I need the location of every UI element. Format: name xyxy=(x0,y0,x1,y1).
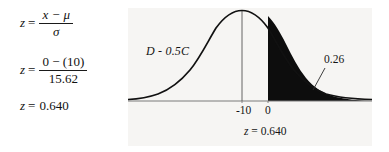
formula-line-2-fraction: 0 − (10) 15.62 xyxy=(39,55,87,86)
z-score-formula-block: z = x − μ σ z = 0 − (10) 15.62 z = 0.640 xyxy=(0,0,128,152)
formula-line-2-numerator: 0 − (10) xyxy=(39,55,87,70)
x-tick-label-neg10: -10 xyxy=(236,104,251,116)
curve-series-label: D - 0.5C xyxy=(146,44,189,59)
tail-label-leader-line xyxy=(313,68,325,90)
formula-line-1-denominator: σ xyxy=(50,24,62,39)
formula-line-3: z = 0.640 xyxy=(20,98,69,114)
formula-line-1-equals: = xyxy=(28,15,35,31)
formula-line-2-denominator: 15.62 xyxy=(46,71,81,86)
x-tick-label-zero: 0 xyxy=(265,104,271,116)
formula-line-3-variable: z xyxy=(20,98,25,114)
formula-line-1-numerator: x − μ xyxy=(39,8,73,23)
normal-distribution-chart: D - 0.5C 0.26 -10 0 z = 0.640 xyxy=(128,8,372,146)
formula-line-1: z = x − μ σ xyxy=(20,8,73,39)
formula-line-3-equals: = xyxy=(28,98,35,114)
formula-line-1-variable: z xyxy=(20,15,25,31)
shaded-tail-area xyxy=(268,16,372,101)
formula-line-2: z = 0 − (10) 15.62 xyxy=(20,55,87,86)
formula-line-3-result: 0.640 xyxy=(39,98,68,114)
formula-line-1-fraction: x − μ σ xyxy=(39,8,73,39)
formula-line-2-variable: z xyxy=(20,62,25,78)
z-value-axis-label: z = 0.640 xyxy=(244,125,287,137)
tail-probability-label: 0.26 xyxy=(324,53,344,65)
formula-line-2-equals: = xyxy=(28,62,35,78)
